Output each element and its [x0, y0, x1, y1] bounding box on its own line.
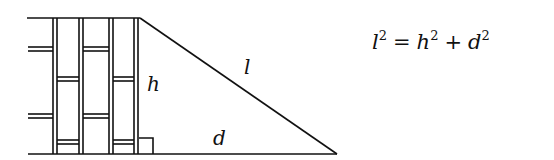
right-angle-marker	[139, 138, 153, 154]
ladder-triangle-diagram: h l d	[0, 0, 554, 160]
eq-term1-var: h	[417, 30, 431, 54]
eq-lhs-exp: 2	[379, 28, 387, 43]
eq-term2-var: d	[468, 30, 481, 54]
eq-lhs-var: l	[372, 30, 379, 54]
eq-term1-exp: 2	[430, 28, 438, 43]
eq-equals: =	[393, 30, 411, 54]
hypotenuse-line	[140, 18, 337, 154]
eq-term2-exp: 2	[481, 28, 489, 43]
scaffold-wall	[27, 18, 337, 154]
label-d: d	[213, 126, 226, 150]
label-l: l	[244, 55, 250, 79]
pythagorean-equation: l2=h2+d2	[372, 30, 490, 54]
triangle	[139, 18, 337, 154]
eq-plus: +	[444, 30, 462, 54]
label-h: h	[147, 72, 160, 96]
